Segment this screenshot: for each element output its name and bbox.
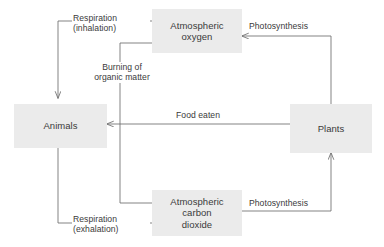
edge-label-photosynthesis-carbon-dioxide: Photosynthesis [248,198,328,208]
edge-photosynthesis-oxygen [242,36,331,104]
node-atmospheric-carbon-dioxide-label: Atmospheric carbon dioxide [170,196,223,231]
cycle-diagram: Atmospheric oxygen Animals Plants Atmosp… [0,0,384,247]
node-animals[interactable]: Animals [14,104,107,148]
node-atmospheric-oxygen[interactable]: Atmospheric oxygen [152,9,242,53]
edge-respiration-exhalation [58,148,167,223]
edge-label-burning-of-organic-matter: Burning of organic matter [76,62,168,83]
node-plants-label: Plants [318,123,345,135]
edge-label-respiration-exhalation: Respiration (exhalation) [72,214,150,235]
node-atmospheric-carbon-dioxide[interactable]: Atmospheric carbon dioxide [152,190,242,236]
edge-label-photosynthesis-oxygen: Photosynthesis [248,21,328,31]
node-plants[interactable]: Plants [290,104,372,153]
node-animals-label: Animals [43,120,77,132]
edge-label-respiration-inhalation: Respiration (inhalation) [72,13,150,34]
node-atmospheric-oxygen-label: Atmospheric oxygen [170,20,223,43]
edge-label-food-eaten: Food eaten [161,110,235,120]
